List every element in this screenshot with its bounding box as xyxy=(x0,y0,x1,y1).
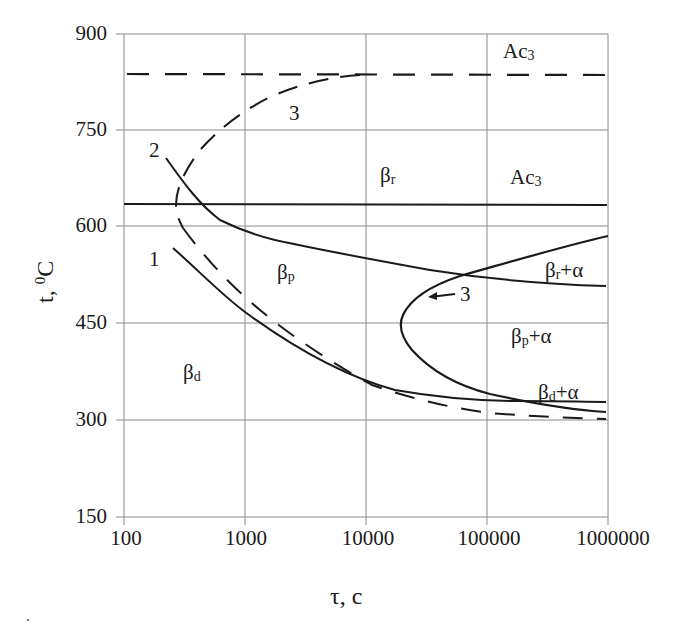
y-tick-900: 900 xyxy=(47,23,107,44)
grid xyxy=(116,34,608,525)
curve-1-label: 1 xyxy=(149,249,160,270)
region-beta-r: βr xyxy=(380,165,395,187)
beta-symbol: β xyxy=(545,258,556,282)
sub-p: p xyxy=(522,333,529,348)
x-tick-100: 100 xyxy=(66,528,186,549)
ac3-dashed-line xyxy=(127,74,608,75)
ac3-top-text: Ac xyxy=(503,39,528,63)
stray-dot xyxy=(27,619,29,621)
ac3-solid-line xyxy=(124,204,607,205)
sub-p: p xyxy=(288,269,295,284)
curve-3-right-label: 3 xyxy=(460,284,471,305)
x-tick-10000: 10000 xyxy=(308,528,428,549)
ac3-top-label: Ac3 xyxy=(503,41,535,63)
plus-alpha: +α xyxy=(560,258,583,282)
x-tick-1000: 1000 xyxy=(186,528,306,549)
beta-symbol: β xyxy=(538,380,549,404)
y-tick-150: 150 xyxy=(47,506,107,527)
curve-3-top-label: 3 xyxy=(289,103,300,124)
ac3-top-sub: 3 xyxy=(528,48,535,63)
sub-d: d xyxy=(549,389,556,404)
beta-symbol: β xyxy=(183,360,194,384)
region-beta-d: βd xyxy=(183,362,201,384)
beta-symbol: β xyxy=(380,163,391,187)
region-beta-p-alpha: βp+α xyxy=(511,326,552,348)
sub-r: r xyxy=(391,172,396,187)
plus-alpha: +α xyxy=(529,324,552,348)
sub-d: d xyxy=(194,369,201,384)
curve-2-label: 2 xyxy=(149,140,160,161)
x-tick-1000000: 1000000 xyxy=(553,528,673,549)
y-tick-600: 600 xyxy=(47,215,107,236)
beta-symbol: β xyxy=(277,260,288,284)
x-tick-100000: 100000 xyxy=(429,528,549,549)
y-axis-label: t, 0C xyxy=(33,261,57,303)
plus-alpha: +α xyxy=(556,380,579,404)
x-axis-label: τ, c xyxy=(330,584,362,608)
arrow-icon xyxy=(428,292,455,300)
y-axis-label-sup: 0 xyxy=(32,277,48,285)
region-beta-d-alpha: βd+α xyxy=(538,382,579,404)
y-tick-750: 750 xyxy=(47,119,107,140)
region-beta-r-alpha: βr+α xyxy=(545,260,583,282)
ac3-mid-sub: 3 xyxy=(535,174,542,189)
y-axis-label-main: t, xyxy=(32,284,58,303)
y-tick-450: 450 xyxy=(47,312,107,333)
region-beta-p: βp xyxy=(277,262,295,284)
ac3-mid-text: Ac xyxy=(510,165,535,189)
beta-symbol: β xyxy=(511,324,522,348)
y-axis-label-unit: C xyxy=(32,261,58,277)
y-tick-300: 300 xyxy=(47,409,107,430)
ac3-mid-label: Ac3 xyxy=(510,167,542,189)
